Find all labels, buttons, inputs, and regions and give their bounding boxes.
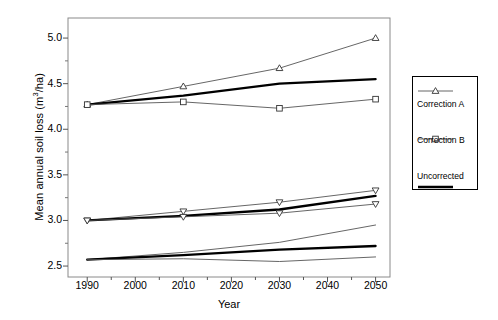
y-axis-tick-label: 4.5 bbox=[28, 78, 62, 88]
chart-figure: Mean annual soil loss (m3/ha) 2.53.03.54… bbox=[0, 0, 498, 320]
series-upper-correction-a bbox=[84, 35, 379, 107]
series-line bbox=[87, 246, 375, 260]
series-line bbox=[87, 38, 375, 105]
chart-legend: Correction ACorrection BUncorrected bbox=[412, 76, 478, 190]
data-point-marker bbox=[84, 102, 90, 108]
y-axis-tick-labels: 2.53.03.54.04.55.0 bbox=[26, 0, 62, 320]
y-axis-tick-label: 4.0 bbox=[28, 123, 62, 133]
legend-label-uncorrected: Uncorrected bbox=[413, 171, 483, 182]
x-axis-label: Year bbox=[68, 298, 390, 310]
x-axis-tick-label: 1990 bbox=[65, 279, 109, 291]
data-point-marker bbox=[181, 99, 187, 105]
data-point-marker bbox=[373, 96, 379, 102]
legend-label-correction-b: Correction B bbox=[413, 135, 483, 146]
legend-symbol-correction-a bbox=[413, 85, 479, 97]
series-line bbox=[87, 190, 375, 220]
legend-label-correction-a: Correction A bbox=[413, 99, 483, 110]
series-upper-correction-b bbox=[84, 96, 378, 111]
x-axis-tick-labels: 1990200020102020203020402050 bbox=[0, 279, 498, 299]
series-upper-uncorrected bbox=[87, 79, 375, 105]
y-axis-tick-label: 5.0 bbox=[28, 32, 62, 42]
data-point-marker bbox=[277, 105, 283, 111]
x-axis-tick-label: 2020 bbox=[209, 279, 253, 291]
series-line bbox=[87, 79, 375, 105]
data-point-marker bbox=[372, 35, 379, 41]
x-axis-tick-label: 2030 bbox=[257, 279, 301, 291]
x-axis-tick-label: 2050 bbox=[354, 279, 398, 291]
x-axis-tick-label: 2000 bbox=[113, 279, 157, 291]
y-axis-tick-label: 3.0 bbox=[28, 214, 62, 224]
series-lower-correction-a bbox=[87, 225, 375, 260]
y-axis-ticks bbox=[63, 38, 68, 266]
series-lower-uncorrected bbox=[87, 246, 375, 260]
y-axis-tick-label: 2.5 bbox=[28, 260, 62, 270]
series-line bbox=[87, 225, 375, 260]
legend-symbol-uncorrected bbox=[413, 181, 479, 193]
plot-frame bbox=[68, 18, 390, 277]
x-axis-tick-label: 2010 bbox=[161, 279, 205, 291]
x-axis-tick-label: 2040 bbox=[306, 279, 350, 291]
y-axis-tick-label: 3.5 bbox=[28, 169, 62, 179]
